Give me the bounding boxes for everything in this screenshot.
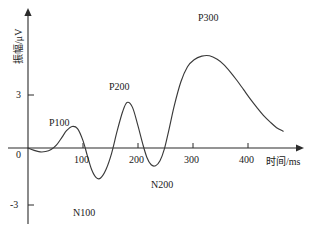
y-tick-label-0: 0 (16, 150, 21, 160)
peak-label-n100: N100 (73, 208, 95, 218)
y-tick-label-3: 3 (16, 90, 21, 100)
peak-label-p300: P300 (198, 13, 219, 23)
erp-waveform-chart: 振幅/μV 时间/ms 3 0 -3 100 200 300 400 P100 … (0, 0, 314, 239)
peak-label-p100: P100 (49, 118, 70, 128)
peak-label-n200: N200 (151, 180, 173, 190)
chart-plot-area (0, 0, 314, 239)
x-axis-title: 时间/ms (266, 157, 300, 167)
x-tick-label-200: 200 (129, 155, 144, 165)
y-tick-label-minus-3: -3 (10, 200, 18, 210)
x-axis-arrow-icon (296, 144, 304, 151)
x-tick-label-100: 100 (74, 155, 89, 165)
x-tick-label-400: 400 (239, 155, 254, 165)
y-axis-arrow-icon (24, 8, 31, 16)
x-tick-label-300: 300 (184, 155, 199, 165)
y-axis-title: 振幅/μV (14, 29, 24, 64)
peak-label-p200: P200 (109, 82, 130, 92)
